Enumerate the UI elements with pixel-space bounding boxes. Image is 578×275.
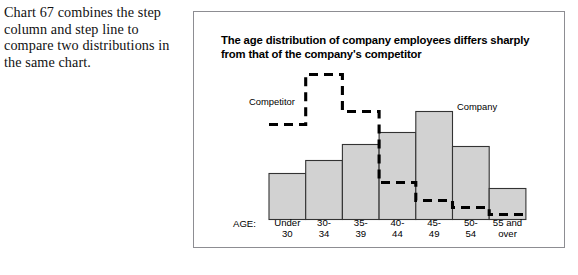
bar-40-44 <box>379 133 416 220</box>
competitor-series-label: Competitor <box>249 96 295 107</box>
chart-panel: The age distribution of company employee… <box>193 11 565 248</box>
chart-svg: Competitor Company <box>194 12 566 249</box>
figure-caption: Chart 67 combines the step column and st… <box>4 4 186 70</box>
bar-under-30 <box>269 174 306 220</box>
plot-area: Competitor Company <box>194 12 566 249</box>
company-bars-group <box>269 112 526 220</box>
bar-35-39 <box>342 145 379 220</box>
bar-45-49 <box>416 112 453 220</box>
company-series-label: Company <box>457 101 497 112</box>
bar-30-34 <box>306 161 343 220</box>
